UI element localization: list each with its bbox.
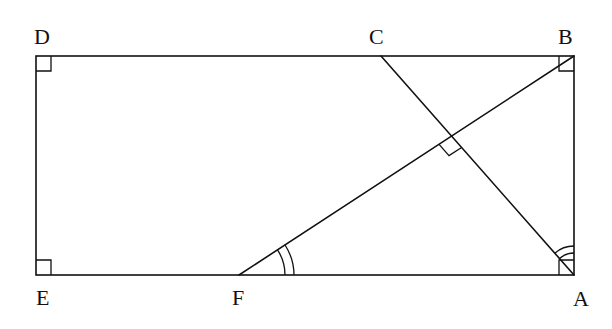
label-a: A <box>573 286 589 311</box>
right-angle-mark-e <box>36 260 51 275</box>
rectangle-dbae <box>36 56 574 275</box>
segment-ca <box>381 56 574 275</box>
label-c: C <box>369 24 384 49</box>
angle-arc-f-inner <box>278 250 286 275</box>
right-angle-mark-d <box>36 56 51 71</box>
label-d: D <box>34 24 50 49</box>
angle-arc-a-inner <box>560 253 575 259</box>
angle-arc-f-outer <box>285 245 294 275</box>
segment-fb <box>239 56 574 275</box>
label-e: E <box>36 285 49 310</box>
label-f: F <box>232 285 244 310</box>
label-b: B <box>558 24 573 49</box>
angle-arc-a-outer <box>555 246 574 253</box>
right-angle-mark-intersection <box>439 144 462 155</box>
geometry-diagram: D C B E F A <box>0 0 612 329</box>
